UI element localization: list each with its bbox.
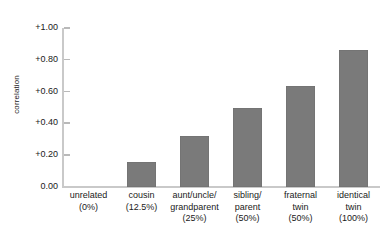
x-axis-label-line: (100%) — [321, 213, 386, 225]
bar-column — [115, 28, 168, 187]
bar — [233, 108, 262, 188]
bar-column — [221, 28, 274, 187]
y-axis-title-text: correlation — [12, 75, 21, 113]
x-axis-labels: unrelated(0%)cousin(12.5%)aunt/uncle/gra… — [62, 190, 380, 244]
bar-column — [274, 28, 327, 187]
y-axis-tick-label: +1.00 — [35, 22, 58, 32]
bar-column — [62, 28, 115, 187]
y-axis-tick-label: +0.20 — [35, 149, 58, 159]
y-axis-title: correlation — [6, 0, 26, 188]
x-axis-category-label: identicaltwin(100%) — [321, 190, 386, 225]
bar — [339, 50, 368, 187]
bar-column — [327, 28, 380, 187]
bar — [127, 162, 156, 187]
bar-column — [168, 28, 221, 187]
y-axis-tick-label: +0.80 — [35, 54, 58, 64]
x-axis-label-line: twin — [321, 202, 386, 214]
y-axis-tick-label: +0.60 — [35, 86, 58, 96]
plot-area — [62, 28, 380, 187]
bar — [286, 86, 315, 187]
y-axis-tick-label: +0.40 — [35, 117, 58, 127]
bar — [180, 136, 209, 187]
correlation-bar-chart: correlation +1.00+0.80+0.60+0.40+0.200.0… — [0, 0, 392, 246]
x-axis-label-line: identical — [321, 190, 386, 202]
